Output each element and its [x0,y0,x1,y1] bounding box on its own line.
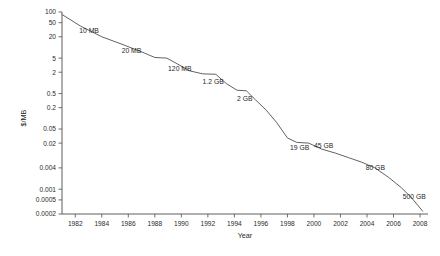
y-tick-label: 0.0002 [36,210,57,217]
x-tick-label: 1992 [201,220,216,227]
x-axis-title: Year [238,231,253,240]
series-point-label: 500 GB [403,193,427,200]
series-point-label: 120 MB [168,65,192,72]
x-tick-label: 2008 [413,220,428,227]
data-point-annotations: 10 MB20 MB120 MB1.2 GB2 GB19 GB45 GB80 G… [79,27,426,201]
x-tick-label: 1984 [94,220,109,227]
chart-root: 1005020520.50.20.050.020.0040.0010.00050… [0,0,440,256]
series-point-label: 19 GB [290,144,310,151]
y-axis-title: $/MB [19,109,28,126]
y-tick-label: 0.001 [39,186,56,193]
y-tick-label: 5 [52,55,56,62]
x-tick-label: 2002 [333,220,348,227]
x-tick-label: 1996 [254,220,269,227]
y-tick-label: 0.2 [47,104,56,111]
y-tick-label: 0.004 [39,164,56,171]
x-tick-label: 1988 [147,220,162,227]
y-tick-label: 0.02 [43,140,56,147]
y-tick-label: 2 [52,69,56,76]
x-tick-label: 2000 [307,220,322,227]
series-point-label: 2 GB [237,95,253,102]
y-tick-label: 50 [49,19,57,26]
y-axis-ticks: 1005020520.50.20.050.020.0040.0010.00050… [36,8,62,217]
x-tick-label: 2004 [360,220,375,227]
hard-drive-cost-series-line [62,15,423,212]
y-tick-label: 100 [45,8,56,15]
series-point-label: 80 GB [366,164,386,171]
x-tick-label: 1998 [280,220,295,227]
y-tick-label: 0.0005 [36,196,57,203]
y-tick-label: 0.05 [43,125,56,132]
y-tick-label: 0.5 [47,90,56,97]
x-tick-label: 1994 [227,220,242,227]
series-point-label: 45 GB [314,142,334,149]
series-point-label: 1.2 GB [203,78,225,85]
x-tick-label: 2006 [386,220,401,227]
series-point-label: 10 MB [79,27,99,34]
series-point-label: 20 MB [122,47,142,54]
x-tick-label: 1990 [174,220,189,227]
x-axis-ticks: 1982198419861988199019921994199619982000… [68,214,428,227]
x-tick-label: 1982 [68,220,83,227]
cost-per-megabyte-line-chart: 1005020520.50.20.050.020.0040.0010.00050… [0,0,440,256]
x-tick-label: 1986 [121,220,136,227]
y-tick-label: 20 [49,33,57,40]
